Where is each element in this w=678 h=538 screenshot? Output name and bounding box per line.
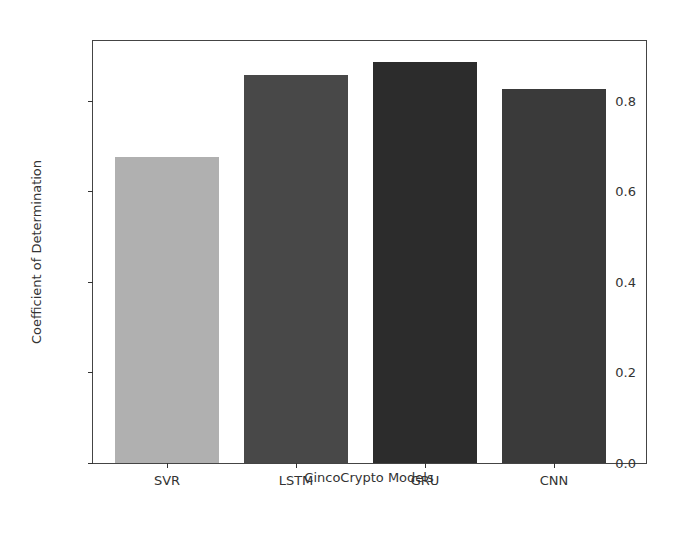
- x-tick: [296, 463, 297, 468]
- x-tick-label: CNN: [540, 473, 569, 488]
- y-tick: [88, 282, 93, 283]
- y-tick: [88, 463, 93, 464]
- y-tick-label: 0.8: [615, 93, 636, 108]
- y-axis-label: Coefficient of Determination: [29, 160, 44, 344]
- y-tick-label: 0.2: [615, 365, 636, 380]
- y-tick-label: 0.6: [615, 184, 636, 199]
- bar-svr: [115, 157, 219, 463]
- y-tick: [88, 372, 93, 373]
- x-tick-label: SVR: [154, 473, 180, 488]
- bar-gru: [373, 62, 477, 463]
- bar-cnn: [502, 89, 606, 463]
- y-tick: [88, 191, 93, 192]
- y-tick-label: 0.4: [615, 274, 636, 289]
- x-tick: [167, 463, 168, 468]
- y-tick-label: 0.0: [615, 456, 636, 471]
- x-tick: [425, 463, 426, 468]
- x-axis-label: CincoCrypto Models: [304, 470, 433, 485]
- plot-area: 0.00.20.40.60.8SVRLSTMGRUCNN: [92, 40, 647, 464]
- y-tick: [88, 101, 93, 102]
- x-tick: [554, 463, 555, 468]
- bar-lstm: [244, 75, 348, 463]
